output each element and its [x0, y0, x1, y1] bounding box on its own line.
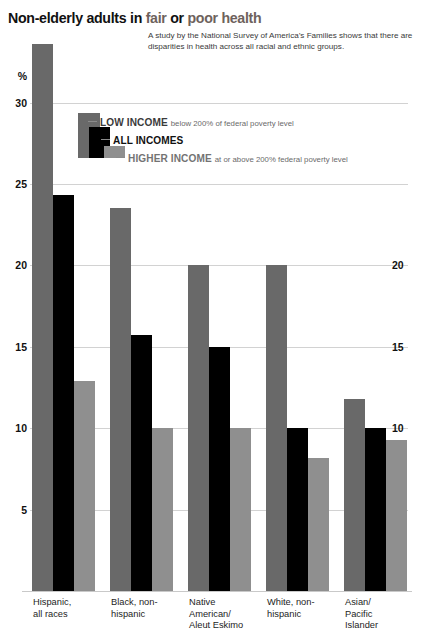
bar [152, 428, 173, 591]
y-tick-left-30: 30 [0, 97, 27, 109]
y-tick-left-15: 15 [0, 341, 27, 353]
bar [131, 335, 152, 591]
bar [188, 265, 209, 591]
y-tick-right-20: 20 [392, 259, 420, 271]
y-tick-left-10: 10 [0, 422, 27, 434]
bar [287, 428, 308, 591]
gridline-25 [30, 184, 408, 185]
y-tick-right-15: 15 [392, 341, 420, 353]
bar [230, 428, 251, 591]
x-axis-label: NativeAmerican/Aleut Eskimo [189, 597, 265, 632]
axis-baseline [22, 591, 412, 592]
bar [365, 428, 386, 591]
y-axis-unit-label: % [0, 70, 27, 82]
bar [53, 195, 74, 591]
gridline-20 [30, 265, 408, 266]
x-axis-label: Asian/PacificIslander [345, 597, 421, 632]
bar-chart: % 30252015105 2015105 Hispanic,all races… [0, 0, 421, 638]
y-tick-right-10: 10 [392, 422, 420, 434]
bar [308, 458, 329, 591]
x-axis-label: Black, non-hispanic [111, 597, 187, 620]
y-tick-left-25: 25 [0, 178, 27, 190]
gridline-30 [30, 103, 408, 104]
bar [386, 440, 407, 591]
y-tick-left-20: 20 [0, 259, 27, 271]
bar [32, 44, 53, 591]
y-tick-left-5: 5 [0, 504, 27, 516]
bar [74, 381, 95, 591]
bar [266, 265, 287, 591]
x-axis-label: White, non-hispanic [267, 597, 343, 620]
x-axis-label: Hispanic,all races [33, 597, 109, 620]
bar [110, 208, 131, 591]
bar [209, 347, 230, 591]
bar [344, 399, 365, 591]
